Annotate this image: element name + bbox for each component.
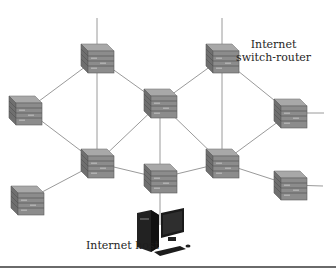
- switch-router-icon-F: [81, 149, 114, 178]
- switch-router-icon-B: [206, 44, 239, 73]
- switch-router-label-line1: Internet: [236, 38, 311, 51]
- bottom-divider: [0, 266, 336, 268]
- switch-router-icon-E: [274, 99, 307, 128]
- switch-router-icon-I: [11, 186, 44, 215]
- switch-router-label-line2: switch-router: [236, 51, 311, 64]
- switch-router-icon-A: [81, 44, 114, 73]
- network-diagram: Internet switch-router Internet host: [0, 0, 336, 271]
- switch-router-icon-H: [144, 164, 177, 193]
- switch-router-icon-J: [274, 171, 307, 200]
- switch-router-icon-D: [144, 89, 177, 118]
- switch-router-label: Internet switch-router: [236, 38, 311, 64]
- internet-host-label: Internet host: [86, 239, 159, 252]
- switch-router-icon-C: [9, 96, 42, 125]
- switch-router-icon-G: [206, 149, 239, 178]
